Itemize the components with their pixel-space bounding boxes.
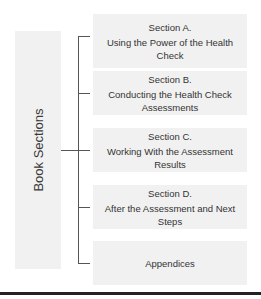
section-title: Section C. (148, 130, 192, 143)
section-subtitle: Conducting the Health Check Assessments (105, 88, 235, 114)
section-c-box: Section C. Working With the Assessment R… (93, 128, 247, 172)
section-title: Section B. (148, 73, 191, 86)
section-subtitle: Working With the Assessment Results (100, 145, 240, 171)
section-title: Section A. (149, 21, 192, 34)
section-subtitle: After the Assessment and Next Steps (100, 202, 240, 228)
root-label: Book Sections (31, 108, 46, 191)
tick-d (78, 207, 90, 208)
bottom-rule (0, 292, 261, 295)
connector-stem (61, 150, 78, 151)
tick-b (78, 93, 90, 94)
tick-a (78, 36, 90, 37)
section-b-box: Section B. Conducting the Health Check A… (93, 71, 247, 115)
section-a-box: Section A. Using the Power of the Health… (93, 14, 247, 68)
section-title: Section D. (148, 187, 192, 200)
appendices-box: Appendices (93, 241, 247, 285)
section-d-box: Section D. After the Assessment and Next… (93, 185, 247, 229)
tick-e (78, 263, 90, 264)
section-subtitle: Appendices (145, 257, 195, 270)
tick-c (78, 150, 90, 151)
section-subtitle: Using the Power of the Health Check (105, 36, 235, 62)
